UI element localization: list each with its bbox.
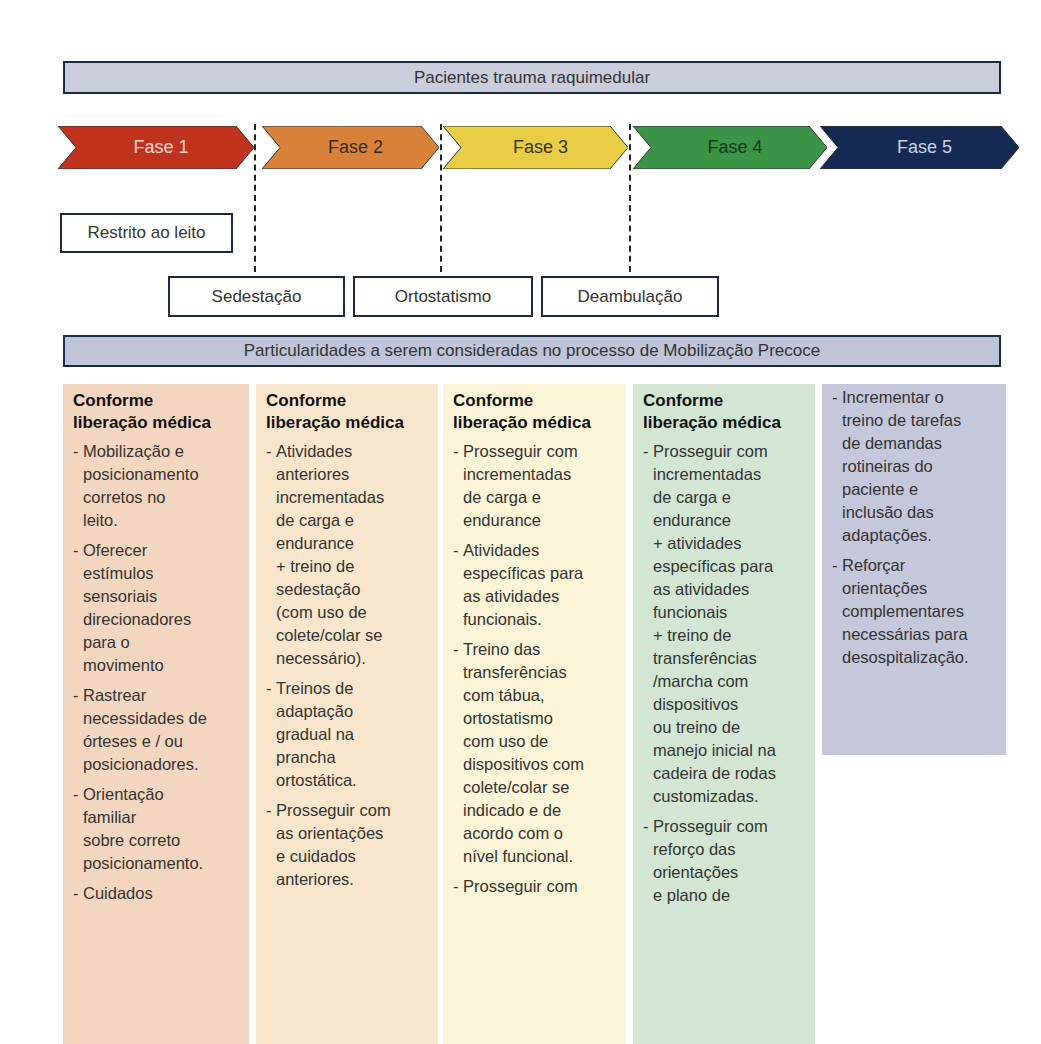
column-list: Prosseguir com incrementadas de carga e … <box>453 440 618 898</box>
list-item: Atividades específicas para as atividade… <box>453 539 618 631</box>
column-list: Atividades anteriores incrementadas de c… <box>266 440 430 891</box>
stage-restricted-label: Restrito ao leito <box>87 223 205 243</box>
list-item: Treinos de adaptação gradual na prancha … <box>266 677 430 792</box>
phase-divider-2 <box>440 124 442 272</box>
stage-standing-label: Ortostatismo <box>395 287 491 307</box>
column-heading: Conforme liberação médica <box>453 390 618 434</box>
phase-chevron-3: Fase 3 <box>443 126 628 169</box>
list-item: Reforçar orientações complementares nece… <box>832 554 998 669</box>
list-item: Cuidados <box>73 882 241 905</box>
column-list: Prosseguir com incrementadas de carga e … <box>643 440 807 907</box>
list-item: Prosseguir com incrementadas de carga e … <box>453 440 618 532</box>
phase-chevron-5: Fase 5 <box>820 126 1019 169</box>
phase-label: Fase 3 <box>443 126 628 169</box>
column-heading: Conforme liberação médica <box>266 390 430 434</box>
list-item: Prosseguir com reforço das orientações e… <box>643 815 807 907</box>
phase-chevron-2: Fase 2 <box>262 126 439 169</box>
phase-column-5: Incrementar o treino de tarefas de deman… <box>822 384 1006 755</box>
list-item: Treino das transferências com tábua, ort… <box>453 638 618 868</box>
list-item: Prosseguir com as orientações e cuidados… <box>266 799 430 891</box>
phase-column-2: Conforme liberação médicaAtividades ante… <box>256 384 438 1044</box>
stage-restricted-box: Restrito ao leito <box>60 213 233 253</box>
list-item: Mobilização e posicionamento corretos no… <box>73 440 241 532</box>
column-heading: Conforme liberação médica <box>73 390 241 434</box>
phase-label: Fase 5 <box>820 126 1019 169</box>
section-bar-label: Particularidades a serem consideradas no… <box>244 341 820 361</box>
phase-label: Fase 1 <box>58 126 254 169</box>
stage-walking-label: Deambulação <box>578 287 683 307</box>
stage-walking-box: Deambulação <box>541 276 719 317</box>
phase-column-4: Conforme liberação médicaProsseguir com … <box>633 384 815 1044</box>
phase-chevron-1: Fase 1 <box>58 126 254 169</box>
title-bar: Pacientes trauma raquimedular <box>63 61 1001 94</box>
phase-column-3: Conforme liberação médicaProsseguir com … <box>443 384 626 1044</box>
list-item: Oferecer estímulos sensoriais direcionad… <box>73 539 241 677</box>
phase-label: Fase 4 <box>633 126 827 169</box>
section-bar: Particularidades a serem consideradas no… <box>63 335 1001 367</box>
list-item: Orientação familiar sobre correto posici… <box>73 783 241 875</box>
stage-standing-box: Ortostatismo <box>353 276 533 317</box>
list-item: Prosseguir com <box>453 875 618 898</box>
column-heading: Conforme liberação médica <box>643 390 807 434</box>
list-item: Atividades anteriores incrementadas de c… <box>266 440 430 670</box>
phase-chevron-4: Fase 4 <box>633 126 827 169</box>
phase-divider-1 <box>254 124 256 272</box>
stage-sitting-label: Sedestação <box>212 287 302 307</box>
phase-label: Fase 2 <box>262 126 439 169</box>
column-list: Incrementar o treino de tarefas de deman… <box>832 386 998 669</box>
title-bar-label: Pacientes trauma raquimedular <box>414 68 650 88</box>
list-item: Prosseguir com incrementadas de carga e … <box>643 440 807 808</box>
list-item: Rastrear necessidades de órteses e / ou … <box>73 684 241 776</box>
stage-sitting-box: Sedestação <box>168 276 345 317</box>
phase-divider-3 <box>629 124 631 272</box>
list-item: Incrementar o treino de tarefas de deman… <box>832 386 998 547</box>
phase-column-1: Conforme liberação médicaMobilização e p… <box>63 384 249 1044</box>
column-list: Mobilização e posicionamento corretos no… <box>73 440 241 905</box>
